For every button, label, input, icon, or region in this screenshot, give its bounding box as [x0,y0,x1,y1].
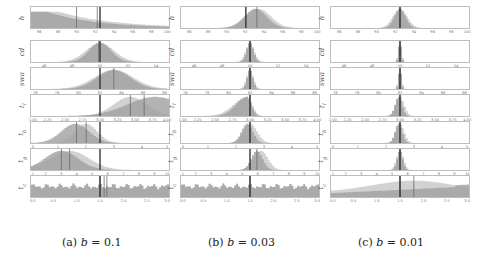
tick-label: 100 [464,30,471,34]
tick-label: 90 [74,30,79,34]
tick-label: 3.0 [464,199,470,203]
caption-c: (c) b = 0.01 [358,236,424,249]
histogram-panel-h-col1 [30,6,170,29]
x-axis-ticks: 0.00.51.01.52.02.53.0 [180,199,320,205]
tick-label: 0.0 [330,199,336,203]
tick-label: 94 [412,30,417,34]
x-axis-ticks: 86889092949698100 [30,30,170,36]
histogram-panel-h-col3 [330,6,470,29]
x-axis-ticks: 0.00.51.01.52.02.53.0 [30,199,170,205]
tick-label: 86 [187,30,192,34]
x-axis-ticks: 86889092949698100 [330,30,470,36]
histogram-panel-cd-col1 [30,40,170,63]
tick-label: 86 [337,30,342,34]
histogram-panel-tc-col1 [30,175,170,198]
y-axis-label: cd [166,40,178,63]
caption-a: (a) b = 0.1 [62,236,121,249]
y-axis-label: tg [316,148,328,171]
tick-label: 100 [164,30,171,34]
tick-label: 92 [243,30,248,34]
tick-label: 92 [393,30,398,34]
tick-label: 0.0 [30,199,36,203]
y-axis-label: tg [166,148,178,171]
tick-label: 96 [130,30,135,34]
tick-label: 92 [93,30,98,34]
histogram-panel-swa-col2 [180,67,320,90]
caption-b: (b) b = 0.03 [208,236,275,249]
y-axis-label: cd [316,40,328,63]
histogram-panel-tc-col2 [180,175,320,198]
tick-label: 1.5 [397,199,403,203]
tick-label: 2.0 [270,199,276,203]
y-axis-label: tb [166,121,178,144]
y-axis-label: swa [316,67,328,90]
histogram-panel-cd-col3 [330,40,470,63]
tick-label: 2.5 [294,199,300,203]
histogram-panel-tb-col1 [30,121,170,144]
tick-label: 86 [37,30,42,34]
histogram-panel-swa-col3 [330,67,470,90]
y-axis-label: tc [166,175,178,198]
tick-label: 96 [430,30,435,34]
tick-label: 88 [56,30,61,34]
histogram-panel-cd-col2 [180,40,320,63]
x-axis-ticks: 0.00.51.01.52.02.53.0 [330,199,470,205]
tick-label: 0.0 [180,199,186,203]
histogram-panel-tl-col2 [180,94,320,117]
y-axis-label: h [166,6,178,29]
histogram-panel-tg-col2 [180,148,320,171]
y-axis-label: tl [316,94,328,117]
histogram-panel-swa-col1 [30,67,170,90]
histogram-panel-tl-col1 [30,94,170,117]
tick-label: 3.0 [164,199,170,203]
y-axis-label: swa [166,67,178,90]
y-axis-label: h [16,6,28,29]
tick-label: 90 [374,30,379,34]
y-axis-label: tb [16,121,28,144]
y-axis-label: tb [316,121,328,144]
tick-label: 2.0 [420,199,426,203]
tick-label: 2.5 [444,199,450,203]
tick-label: 0.5 [200,199,206,203]
tick-label: 98 [449,30,454,34]
tick-label: 90 [224,30,229,34]
tick-label: 94 [262,30,267,34]
histogram-panel-tb-col2 [180,121,320,144]
histogram-panel-tc-col3 [330,175,470,198]
tick-label: 1.0 [224,199,230,203]
y-axis-label: tl [166,94,178,117]
y-axis-label: tg [16,148,28,171]
tick-label: 100 [314,30,321,34]
y-axis-label: h [316,6,328,29]
tick-label: 0.5 [50,199,56,203]
tick-label: 3.0 [314,199,320,203]
tick-label: 2.0 [120,199,126,203]
tick-label: 98 [149,30,154,34]
tick-label: 1.5 [247,199,253,203]
histogram-panel-tg-col1 [30,148,170,171]
tick-label: 1.0 [74,199,80,203]
tick-label: 1.0 [374,199,380,203]
y-axis-label: tl [16,94,28,117]
x-axis-ticks: 86889092949698100 [180,30,320,36]
tick-label: 1.5 [97,199,103,203]
tick-label: 0.5 [350,199,356,203]
tick-label: 88 [206,30,211,34]
histogram-panel-tl-col3 [330,94,470,117]
tick-label: 98 [299,30,304,34]
histogram-panel-tb-col3 [330,121,470,144]
tick-label: 2.5 [144,199,150,203]
histogram-panel-h-col2 [180,6,320,29]
y-axis-label: tc [316,175,328,198]
tick-label: 94 [112,30,117,34]
tick-label: 88 [356,30,361,34]
histogram-panel-tg-col3 [330,148,470,171]
y-axis-label: tc [16,175,28,198]
tick-label: 96 [280,30,285,34]
y-axis-label: swa [16,67,28,90]
y-axis-label: cd [16,40,28,63]
